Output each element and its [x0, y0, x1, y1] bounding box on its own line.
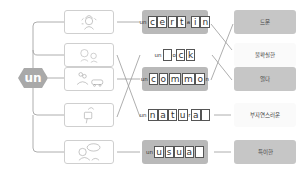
- letter-box[interactable]: a: [185, 146, 195, 158]
- confused-person-icon: [65, 11, 113, 33]
- meaning-unnatural: 부자연스러운: [234, 103, 296, 127]
- faces-icon: [65, 44, 113, 66]
- letter-box[interactable]: t: [168, 109, 177, 121]
- letter-box[interactable]: m: [169, 73, 182, 85]
- letter-box[interactable]: r: [168, 16, 177, 28]
- meaning-unusual: 특이한: [234, 140, 296, 164]
- letter-box[interactable]: a: [158, 109, 168, 121]
- word-unusual: un u s u a l: [142, 140, 208, 164]
- word-uncertain: un c e r t a i n: [142, 10, 208, 34]
- word-unnatural: un n a t u r a l: [142, 103, 208, 127]
- letter-box[interactable]: c: [148, 16, 157, 28]
- letter-box[interactable]: l: [195, 146, 204, 158]
- letter-box[interactable]: l: [201, 109, 210, 121]
- letter-box[interactable]: k: [186, 49, 195, 61]
- image-card-4: [64, 103, 114, 127]
- meaning-unlock: 열다: [234, 67, 296, 91]
- image-card-5: [64, 140, 114, 164]
- letter-box[interactable]: l: [163, 49, 172, 61]
- letter-box[interactable]: u: [178, 109, 188, 121]
- letter-box[interactable]: s: [165, 146, 174, 158]
- prefix-label: un: [18, 68, 48, 88]
- lock-key-icon: [65, 104, 113, 126]
- letter-box[interactable]: a: [191, 109, 201, 121]
- letter-box[interactable]: t: [177, 16, 186, 28]
- letter-box[interactable]: c: [149, 73, 158, 85]
- letter-box[interactable]: n: [148, 109, 158, 121]
- letter-given: o: [172, 50, 175, 60]
- letter-box[interactable]: e: [157, 16, 167, 28]
- meaning-uncertain: 불확실한: [234, 43, 296, 67]
- crowd-car-icon: [65, 68, 113, 90]
- letter-box[interactable]: u: [174, 146, 184, 158]
- image-card-1: [64, 10, 114, 34]
- meaning-rare: 드문: [234, 10, 296, 34]
- letter-box[interactable]: u: [154, 146, 164, 158]
- letter-box[interactable]: o: [195, 73, 205, 85]
- letter-given: n: [206, 74, 210, 84]
- word-uncommon: un c o m m o n: [142, 67, 208, 91]
- speech-bubble-animal-icon: [65, 141, 113, 163]
- image-card-2: [64, 43, 114, 67]
- letter-box[interactable]: c: [176, 49, 185, 61]
- word-unlock: un l o c k: [142, 43, 208, 67]
- letter-box[interactable]: m: [182, 73, 195, 85]
- image-card-3: [64, 67, 114, 91]
- letter-box[interactable]: n: [200, 16, 210, 28]
- letter-box[interactable]: i: [191, 16, 200, 28]
- letter-given: a: [187, 17, 190, 27]
- letter-box[interactable]: o: [159, 73, 169, 85]
